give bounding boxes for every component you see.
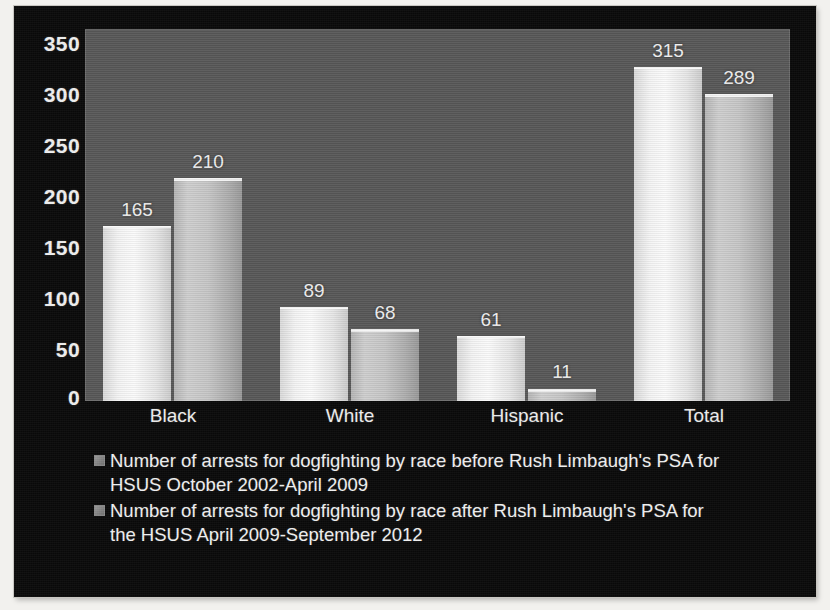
legend-label-after-line1: Number of arrests for dogfighting by rac… <box>110 500 704 521</box>
bar-value-white-after: 68 <box>374 302 395 324</box>
y-axis: 350 300 250 200 150 100 50 0 <box>14 6 80 603</box>
bar-hispanic-after[interactable]: 11 <box>528 389 596 401</box>
y-tick-250: 250 <box>24 134 80 158</box>
legend-item-before[interactable]: Number of arrests for dogfighting by rac… <box>94 449 794 497</box>
legend-label-before-line1: Number of arrests for dogfighting by rac… <box>110 450 719 471</box>
legend-swatch-icon <box>94 505 105 516</box>
bar-value-hispanic-after: 11 <box>552 361 572 383</box>
plot-area: 165 210 89 68 61 11 <box>85 29 790 401</box>
x-tick-hispanic: Hispanic <box>491 405 564 427</box>
y-tick-150: 150 <box>24 236 80 260</box>
bar-total-after[interactable]: 289 <box>705 94 773 401</box>
bar-value-total-before: 315 <box>652 40 684 62</box>
y-tick-0: 0 <box>24 386 80 410</box>
legend-label-after: Number of arrests for dogfighting by rac… <box>110 499 704 547</box>
legend-label-before-line2: HSUS October 2002-April 2009 <box>110 474 368 495</box>
bar-white-after[interactable]: 68 <box>351 329 419 401</box>
y-tick-100: 100 <box>24 287 80 311</box>
bars-container: 165 210 89 68 61 11 <box>85 29 790 401</box>
bar-value-black-before: 165 <box>121 199 153 221</box>
y-tick-50: 50 <box>24 338 80 362</box>
y-tick-200: 200 <box>24 185 80 209</box>
bar-hispanic-before[interactable]: 61 <box>457 336 525 401</box>
legend-label-before: Number of arrests for dogfighting by rac… <box>110 449 719 497</box>
y-tick-300: 300 <box>24 83 80 107</box>
legend-item-after[interactable]: Number of arrests for dogfighting by rac… <box>94 499 794 547</box>
scanned-page: 350 300 250 200 150 100 50 0 165 210 89 <box>0 0 830 610</box>
bar-value-hispanic-before: 61 <box>480 309 501 331</box>
bar-value-total-after: 289 <box>723 67 755 89</box>
chart-legend: Number of arrests for dogfighting by rac… <box>94 449 794 549</box>
x-tick-white: White <box>326 405 375 427</box>
bar-white-before[interactable]: 89 <box>280 307 348 401</box>
bar-black-after[interactable]: 210 <box>174 178 242 401</box>
bar-value-black-after: 210 <box>192 151 224 173</box>
bar-black-before[interactable]: 165 <box>103 226 171 401</box>
legend-label-after-line2: the HSUS April 2009-September 2012 <box>110 524 423 545</box>
x-axis: Black White Hispanic Total <box>85 405 790 437</box>
x-tick-total: Total <box>684 405 724 427</box>
legend-swatch-icon <box>94 455 105 466</box>
bar-chart: 350 300 250 200 150 100 50 0 165 210 89 <box>14 6 816 597</box>
x-tick-black: Black <box>150 405 196 427</box>
bar-value-white-before: 89 <box>303 280 324 302</box>
bar-total-before[interactable]: 315 <box>634 67 702 401</box>
y-tick-350: 350 <box>24 32 80 56</box>
